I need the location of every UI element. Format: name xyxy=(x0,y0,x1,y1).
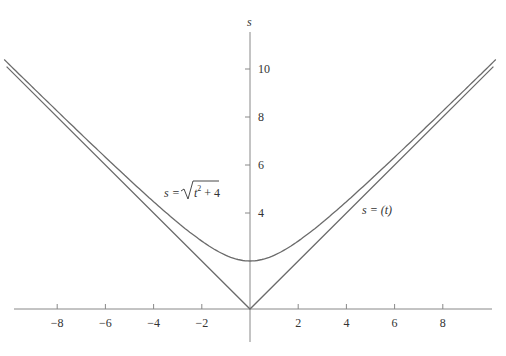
x-tick-label: 2 xyxy=(295,316,301,330)
y-ticks: 46810 xyxy=(245,62,270,220)
x-tick-label: 8 xyxy=(440,316,446,330)
x-tick-label: 4 xyxy=(343,316,349,330)
y-axis-label: s xyxy=(247,15,252,29)
svg-text:t2 + 4: t2 + 4 xyxy=(194,184,220,200)
y-tick-label: 4 xyxy=(258,206,264,220)
x-tick-label: −4 xyxy=(147,316,160,330)
x-tick-label: −2 xyxy=(195,316,208,330)
y-tick-label: 8 xyxy=(258,110,264,124)
sqrt-symbol: t2 + 4 xyxy=(181,181,220,200)
chart: −8−6−4−22468 46810 s s = t2 + 4 s = (t) xyxy=(0,0,506,356)
x-tick-label: −6 xyxy=(99,316,112,330)
y-tick-label: 6 xyxy=(258,158,264,172)
x-tick-label: 6 xyxy=(392,316,398,330)
curve-label-prefix: s = xyxy=(164,186,180,200)
curve-label-sqrt: s = xyxy=(164,186,180,200)
axes xyxy=(14,32,492,342)
x-tick-label: −8 xyxy=(51,316,64,330)
curve-label-abs: s = (t) xyxy=(362,203,392,217)
y-tick-label: 10 xyxy=(258,62,270,76)
